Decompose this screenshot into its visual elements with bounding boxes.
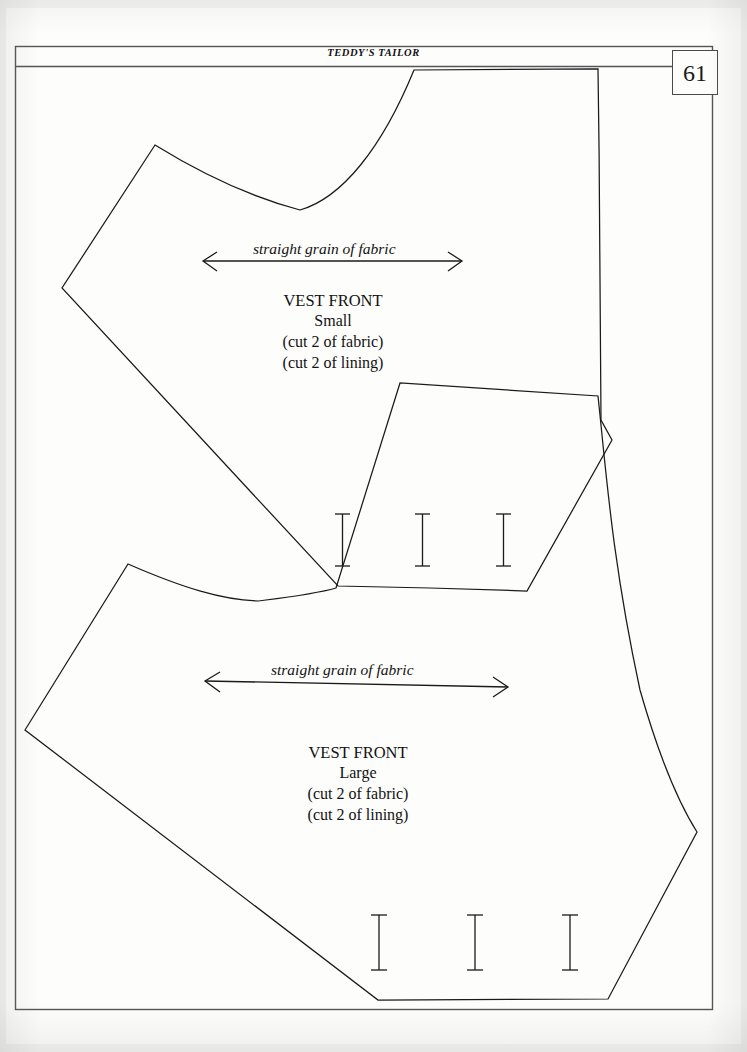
- page-number-box: 61: [672, 50, 718, 95]
- button-mark: [562, 915, 578, 970]
- running-head: TEDDY'S TAILOR: [0, 47, 747, 58]
- button-mark: [371, 915, 387, 970]
- pattern-outline-vest-front-large: [25, 383, 697, 1000]
- piece-title-large: VEST FRONT: [258, 742, 458, 763]
- piece-cut-fabric-large: (cut 2 of fabric): [258, 784, 458, 805]
- button-mark: [415, 514, 430, 566]
- piece-cut-fabric-small: (cut 2 of fabric): [233, 332, 433, 353]
- piece-label-large: VEST FRONT Large (cut 2 of fabric) (cut …: [258, 742, 458, 826]
- button-mark: [496, 514, 511, 566]
- pattern-page: TEDDY'S TAILOR 61 straight grain of fabr…: [0, 0, 747, 1052]
- piece-title-small: VEST FRONT: [233, 290, 433, 311]
- page-border: [16, 47, 713, 1010]
- piece-cut-lining-large: (cut 2 of lining): [258, 805, 458, 826]
- piece-cut-lining-small: (cut 2 of lining): [233, 353, 433, 374]
- button-mark: [335, 514, 350, 566]
- piece-size-small: Small: [233, 311, 433, 332]
- grain-label-large: straight grain of fabric: [271, 661, 414, 679]
- grain-label-small: straight grain of fabric: [253, 240, 396, 258]
- piece-size-large: Large: [258, 763, 458, 784]
- page-number: 61: [683, 61, 707, 85]
- pattern-drawing: [0, 0, 747, 1052]
- button-mark: [467, 915, 483, 970]
- piece-label-small: VEST FRONT Small (cut 2 of fabric) (cut …: [233, 290, 433, 374]
